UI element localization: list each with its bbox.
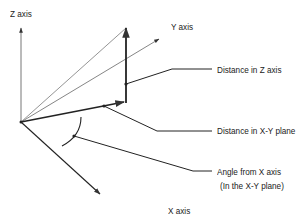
angle-arc: [62, 117, 81, 146]
origin-dot: [20, 121, 23, 124]
angle-label-line1: Angle from X axis: [217, 166, 281, 177]
xy-projection-line: [21, 102, 124, 122]
distance-z-label: Distance in Z axis: [217, 64, 281, 75]
z-distance-leader: [126, 69, 212, 84]
angle-label-line2: (In the X-Y plane): [220, 180, 284, 191]
z-axis-label: Z axis: [10, 8, 32, 19]
y-axis-label: Y axis: [171, 21, 193, 32]
distance-xy-label: Distance in X-Y plane: [217, 125, 295, 136]
angle-leader: [74, 136, 212, 171]
xy-distance-leader: [104, 106, 212, 131]
coordinate-diagram: Z axis Y axis Distance in Z axis Distanc…: [0, 0, 303, 224]
x-axis-label: X axis: [168, 205, 190, 216]
resultant-vector-line: [21, 28, 126, 122]
x-axis-line: [21, 122, 100, 194]
